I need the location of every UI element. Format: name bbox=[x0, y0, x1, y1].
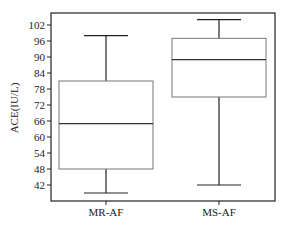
y-tick-label: 42 bbox=[34, 179, 45, 191]
x-axis: MR-AFMS-AF bbox=[89, 201, 236, 218]
y-tick-label: 78 bbox=[34, 83, 46, 95]
box-ms-af bbox=[172, 20, 266, 185]
y-tick-label: 66 bbox=[34, 115, 46, 127]
y-tick-label: 96 bbox=[34, 35, 46, 47]
plot-area: 42485460667278849096102 MR-AFMS-AF ACE(I… bbox=[0, 0, 285, 227]
y-tick-label: 54 bbox=[34, 147, 46, 159]
box-mr-af bbox=[59, 36, 153, 193]
y-tick-label: 48 bbox=[34, 163, 46, 175]
box-plot-chart: 42485460667278849096102 MR-AFMS-AF ACE(I… bbox=[0, 0, 285, 227]
iqr-box bbox=[59, 81, 153, 169]
y-tick-label: 84 bbox=[34, 67, 46, 79]
x-tick-label: MS-AF bbox=[202, 206, 236, 218]
y-tick-label: 60 bbox=[34, 131, 46, 143]
y-axis-label: ACE(IU/L) bbox=[8, 82, 21, 133]
iqr-box bbox=[172, 38, 266, 97]
x-tick-label: MR-AF bbox=[89, 206, 124, 218]
y-axis: 42485460667278849096102 bbox=[29, 19, 52, 191]
y-tick-label: 90 bbox=[34, 51, 46, 63]
y-tick-label: 102 bbox=[29, 19, 46, 31]
boxes bbox=[59, 20, 266, 193]
y-tick-label: 72 bbox=[34, 99, 45, 111]
